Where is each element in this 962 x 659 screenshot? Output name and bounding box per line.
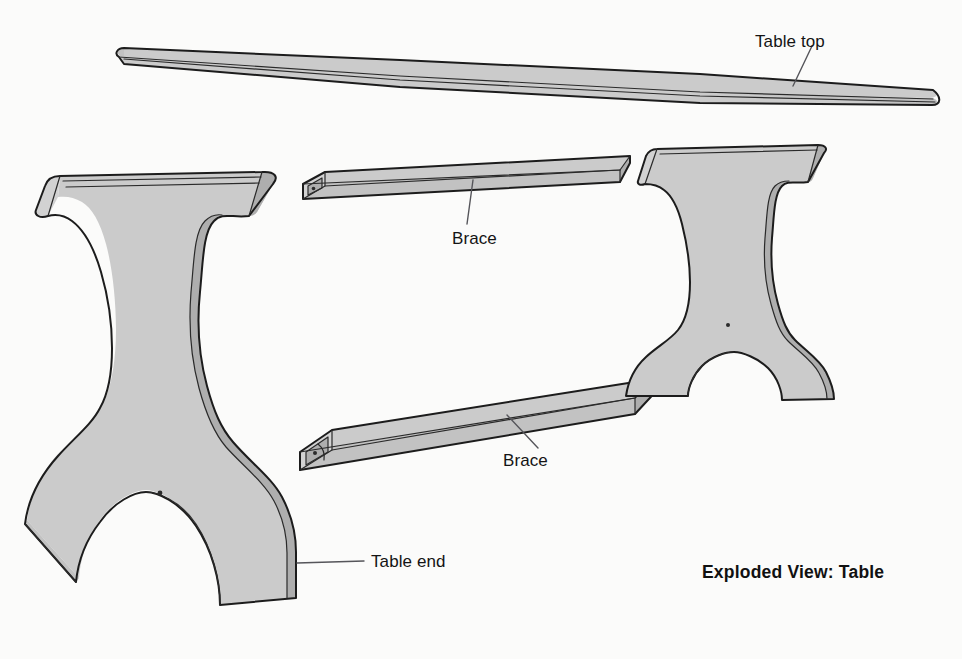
table-exploded-drawing: .fill { fill: #cbcbcb; } .fillmid { fill… (0, 0, 962, 659)
part-brace-upper (303, 156, 630, 199)
part-table-end-right (626, 145, 834, 400)
leader-table-top (793, 46, 812, 86)
leader-table-end (297, 561, 364, 563)
part-brace-lower (300, 378, 660, 470)
label-brace-upper: Brace (452, 230, 497, 247)
figure-title: Exploded View: Table (702, 562, 884, 583)
label-table-top: Table top (755, 33, 825, 50)
exploded-view-figure: .fill { fill: #cbcbcb; } .fillmid { fill… (0, 0, 962, 659)
part-table-end-left (25, 172, 296, 605)
part-table-top (117, 48, 940, 105)
label-brace-lower: Brace (503, 452, 548, 469)
label-table-end: Table end (371, 553, 446, 570)
